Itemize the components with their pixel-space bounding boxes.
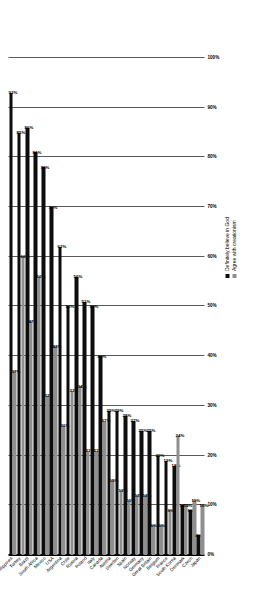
bar-value-label: 78% bbox=[40, 166, 49, 170]
bar-value-label: 62% bbox=[57, 245, 66, 249]
bar-group: 50%33% bbox=[65, 58, 73, 555]
bar bbox=[110, 480, 114, 555]
bar bbox=[180, 505, 184, 555]
value-axis-tick-label: 90% bbox=[207, 106, 216, 111]
bar-value-label: 93% bbox=[8, 91, 17, 95]
bar-value-label: 29% bbox=[106, 409, 115, 413]
bar-group: 28%11% bbox=[122, 58, 130, 555]
bar-value-label: 51% bbox=[81, 300, 90, 304]
bar bbox=[86, 451, 90, 555]
bar-value-label: 70% bbox=[48, 206, 57, 210]
bar bbox=[115, 411, 119, 555]
bar-value-label: 81% bbox=[32, 151, 41, 155]
value-axis-tick-label: 80% bbox=[207, 155, 216, 160]
legend-label: Definitely believe in God bbox=[224, 217, 229, 271]
bar-group: 78%32% bbox=[41, 58, 49, 555]
legend-swatch-icon bbox=[225, 274, 229, 278]
bar-group: 86%47% bbox=[24, 58, 32, 555]
bar bbox=[90, 307, 94, 556]
bar bbox=[37, 277, 41, 555]
bar bbox=[147, 431, 151, 555]
bar bbox=[176, 436, 180, 555]
bar bbox=[94, 451, 98, 555]
bar bbox=[159, 525, 163, 555]
bar-value-label: 19% bbox=[163, 459, 172, 463]
bar-value-label: 40% bbox=[97, 355, 106, 359]
bar-group: 81%56% bbox=[33, 58, 41, 555]
bar-group: 18%24% bbox=[171, 58, 179, 555]
bar bbox=[17, 133, 21, 555]
chart-canvas: 100%90%80%70%60%50%40%30%20%10%0%93%37%P… bbox=[0, 0, 261, 594]
bar-value-label: 20% bbox=[155, 454, 164, 458]
bar bbox=[168, 510, 172, 555]
bar bbox=[53, 346, 57, 555]
bar-value-label: 50% bbox=[65, 305, 74, 309]
plot-area: 100%90%80%70%60%50%40%30%20%10%0%93%37%P… bbox=[8, 58, 204, 556]
bar-group: 29%15% bbox=[106, 58, 114, 555]
value-axis-tick-label: 60% bbox=[207, 255, 216, 260]
bar-value-label: 25% bbox=[146, 429, 155, 433]
bar-group: 29%13% bbox=[114, 58, 122, 555]
value-axis-tick-label: 70% bbox=[207, 205, 216, 210]
bar bbox=[78, 386, 82, 555]
bar-group: 20%6% bbox=[155, 58, 163, 555]
bar bbox=[74, 277, 78, 555]
bar bbox=[188, 510, 192, 555]
bar bbox=[127, 500, 131, 555]
value-axis-tick-label: 100% bbox=[207, 56, 219, 61]
bar bbox=[135, 495, 139, 555]
bar bbox=[41, 167, 45, 555]
bar bbox=[98, 356, 102, 555]
bar bbox=[119, 490, 123, 555]
bar-group: 25%12% bbox=[139, 58, 147, 555]
chart-legend: Definitely believe in GodAgree with crea… bbox=[224, 217, 236, 278]
bar bbox=[192, 500, 196, 555]
bar-value-label: 27% bbox=[130, 419, 139, 423]
bar-group: 50%21% bbox=[90, 58, 98, 555]
bar bbox=[49, 207, 53, 555]
bar-group: 51%21% bbox=[82, 58, 90, 555]
value-axis-tick-label: 20% bbox=[207, 454, 216, 459]
legend-item[interactable]: Definitely believe in God bbox=[224, 217, 229, 278]
bar-group: 10%10% bbox=[180, 58, 188, 555]
bar bbox=[12, 371, 16, 555]
bar bbox=[9, 93, 13, 555]
bar-group: 62%26% bbox=[57, 58, 65, 555]
legend-label: Agree with creationism bbox=[231, 220, 236, 271]
legend-item[interactable]: Agree with creationism bbox=[231, 217, 236, 278]
bar bbox=[21, 257, 25, 555]
bar bbox=[70, 391, 74, 555]
bar-value-label: 86% bbox=[24, 126, 33, 130]
chart-rotation-wrapper: 100%90%80%70%60%50%40%30%20%10%0%93%37%P… bbox=[0, 0, 261, 594]
bar-group: 93%37% bbox=[8, 58, 16, 555]
bar-group: 25%6% bbox=[147, 58, 155, 555]
bar-group: 27%12% bbox=[131, 58, 139, 555]
value-axis-tick-label: 30% bbox=[207, 404, 216, 409]
bar bbox=[29, 321, 33, 555]
bar-group: 19%9% bbox=[163, 58, 171, 555]
bar bbox=[131, 421, 135, 555]
legend-swatch-icon bbox=[232, 274, 236, 278]
bar bbox=[151, 525, 155, 555]
bar-value-label: 50% bbox=[89, 305, 98, 309]
bar bbox=[156, 456, 160, 555]
value-axis-tick-label: 50% bbox=[207, 305, 216, 310]
bar-group: 4%10% bbox=[196, 58, 204, 555]
bar-group: 70%42% bbox=[49, 58, 57, 555]
bar bbox=[58, 247, 62, 555]
bar-group: 85%60% bbox=[16, 58, 24, 555]
bar bbox=[25, 128, 29, 555]
bar-group: 9%11% bbox=[188, 58, 196, 555]
value-axis-tick-label: 40% bbox=[207, 354, 216, 359]
bar-value-label: 10% bbox=[199, 504, 208, 508]
bar-value-label: 85% bbox=[16, 131, 25, 135]
bar-group: 40%27% bbox=[98, 58, 106, 555]
bar-value-label: 29% bbox=[114, 409, 123, 413]
bar bbox=[123, 416, 127, 555]
bar-value-label: 56% bbox=[73, 275, 82, 279]
bar bbox=[66, 307, 70, 556]
value-axis-tick-label: 0% bbox=[207, 553, 214, 558]
bar bbox=[61, 426, 65, 555]
bar bbox=[45, 396, 49, 555]
bar-value-label: 28% bbox=[122, 414, 131, 418]
